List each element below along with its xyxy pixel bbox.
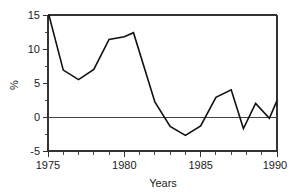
- x-tick-label-1985: 1985: [188, 159, 212, 171]
- y-tick-label-15: 15: [28, 9, 40, 21]
- x-axis-tick-labels: 1975 1980 1985 1990: [36, 159, 287, 171]
- y-tick-label-minus5: -5: [30, 145, 40, 157]
- x-axis-ticks: [48, 151, 277, 157]
- x-tick-label-1990: 1990: [263, 159, 287, 171]
- y-axis-tick-labels: 15 10 5 0 -5: [28, 9, 40, 157]
- x-tick-label-1975: 1975: [36, 159, 60, 171]
- y-tick-label-10: 10: [28, 43, 40, 55]
- x-tick-label-1980: 1980: [112, 159, 136, 171]
- y-axis-ticks: [43, 15, 48, 151]
- x-axis-title: Years: [149, 177, 177, 189]
- y-tick-label-5: 5: [34, 77, 40, 89]
- axes-frame: [48, 15, 277, 151]
- y-tick-label-0: 0: [34, 111, 40, 123]
- y-axis-title: %: [8, 80, 20, 90]
- chart-container: 15 10 5 0 -5 1975 19: [0, 0, 298, 195]
- line-chart: 15 10 5 0 -5 1975 19: [0, 0, 298, 195]
